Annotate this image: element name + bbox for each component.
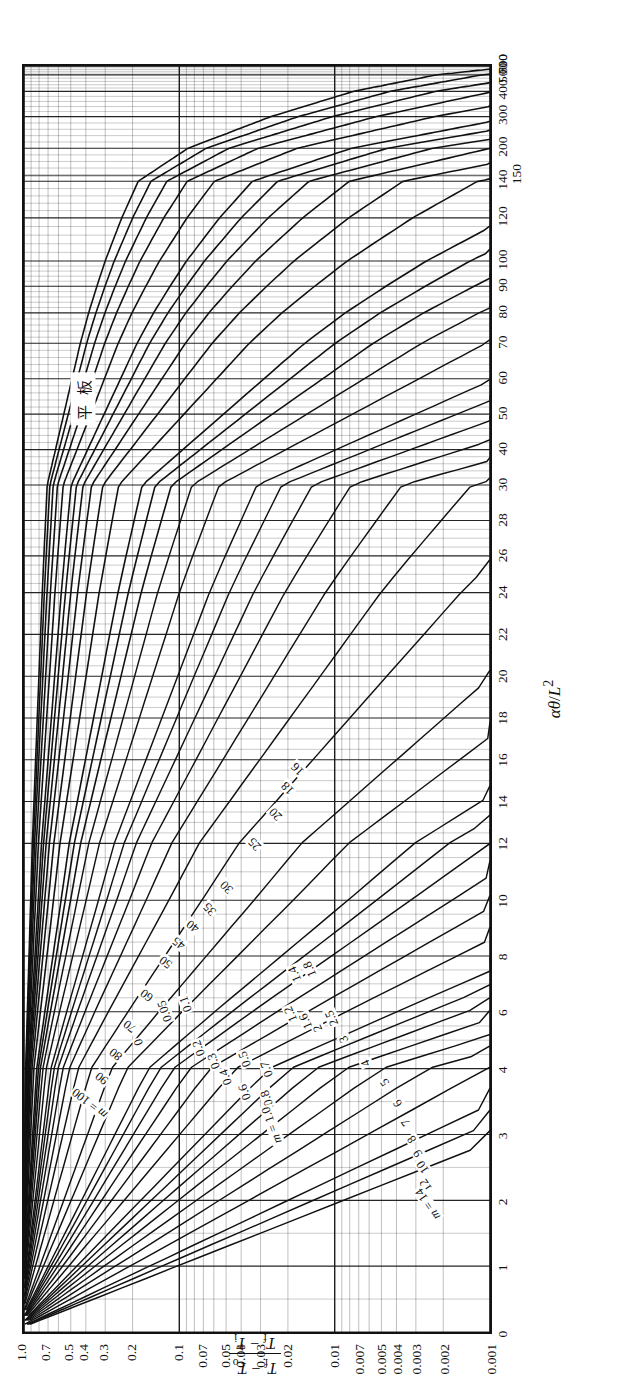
x-axis-ticks: 0123468101214161820222426283040506070809… (496, 64, 522, 1334)
x-axis-label-alpha: α (545, 709, 564, 718)
x-tick-24: 24 (496, 586, 510, 600)
curve-m-30 (24, 163, 490, 1258)
y-tick-0p005: 0.005 (375, 1344, 389, 1374)
curve-m-1p0 (27, 927, 490, 1316)
y-axis-denominator: Tf − Ti (229, 1331, 281, 1354)
curve-m-10 (24, 379, 490, 1288)
y-num-sub2: o (233, 1357, 239, 1369)
x-axis-label-exponent: 2 (540, 680, 556, 687)
x-axis-label-L: L (545, 687, 564, 696)
x-tick-10: 10 (496, 894, 510, 908)
curve-m-0p1 (27, 1088, 490, 1324)
y-tick-0p2: 0.2 (125, 1344, 139, 1361)
x-tick-28: 28 (496, 513, 510, 527)
y-tick-0p7: 0.7 (39, 1344, 53, 1361)
x-tick-90: 90 (496, 278, 510, 292)
x-tick-1: 1 (496, 1265, 510, 1272)
y-tick-0p4: 0.4 (77, 1344, 91, 1361)
x-tick-60: 60 (496, 371, 510, 385)
y-num-T1: T (268, 1360, 277, 1377)
curve-m-40 (24, 139, 490, 1246)
x-tick-40: 40 (496, 442, 510, 456)
x-tick-3: 3 (496, 1133, 510, 1140)
x-tick-140: 140 (496, 169, 510, 189)
y-tick-0p5: 0.5 (62, 1344, 76, 1361)
curve-m-0p05 (28, 1110, 490, 1324)
curve-m-4 (25, 560, 490, 1304)
curve-m-0p3 (29, 1046, 490, 1321)
y-tick-0p004: 0.004 (391, 1344, 405, 1374)
y-num-sub1: f (264, 1357, 268, 1369)
x-axis-label: αθ/L2 (540, 64, 565, 1334)
y-axis-label: Tf − To Tf − Ti (175, 1311, 335, 1396)
x-tick-22: 22 (496, 627, 510, 641)
curve-m-1p8 (27, 815, 490, 1310)
x-tick-30: 30 (496, 478, 510, 492)
x-axis-label-slash: / (545, 696, 564, 701)
y-tick-0p007: 0.007 (353, 1344, 367, 1374)
x-tick-100: 100 (496, 249, 510, 269)
plot-area: 00.050.10.20.30.40.50.60.70.8m = 1.01.21… (22, 64, 492, 1334)
curve-m-0 (30, 1131, 490, 1325)
x-tick-0: 0 (496, 1331, 510, 1338)
y-tick-0p001: 0.001 (485, 1344, 499, 1374)
x-tick-6: 6 (496, 1009, 510, 1016)
y-axis-numerator: Tf − To (229, 1354, 281, 1378)
curve-m-100 (24, 69, 490, 1203)
curve-m-0p2 (25, 1067, 490, 1324)
curve-m-50 (24, 121, 490, 1232)
curve-m-16 (24, 273, 490, 1279)
x-tick-4: 4 (496, 1066, 510, 1073)
x-tick-20: 20 (496, 669, 510, 683)
x-tick-150: 150 (510, 164, 524, 184)
x-tick-14: 14 (496, 795, 510, 809)
y-tick-0p002: 0.002 (438, 1344, 452, 1374)
x-tick-2: 2 (496, 1199, 510, 1206)
x-tick-120: 120 (496, 206, 510, 226)
y-tick-0p3: 0.3 (97, 1344, 111, 1361)
x-tick-300: 300 (496, 105, 510, 125)
curve-m-1p6 (24, 829, 490, 1316)
y-tick-1p0: 1.0 (15, 1344, 29, 1361)
curve-m-5 (24, 478, 490, 1304)
y-num-T2: T (239, 1360, 248, 1377)
curve-layer (24, 66, 490, 1332)
x-tick-200: 200 (496, 136, 510, 156)
chart-stage: 00.050.10.20.30.40.50.60.70.8m = 1.01.21… (0, 0, 624, 1396)
x-tick-70: 70 (496, 335, 510, 349)
y-den-sub2: i (234, 1332, 237, 1344)
curve-m-80 (24, 82, 490, 1202)
x-tick-16: 16 (496, 753, 510, 767)
y-axis-fraction: Tf − To Tf − Ti (229, 1331, 281, 1378)
y-tick-0p003: 0.003 (410, 1344, 424, 1374)
y-den-T1: T (267, 1336, 276, 1353)
y-den-T2: T (237, 1336, 246, 1353)
x-axis-label-theta: θ (545, 701, 564, 709)
x-tick-80: 80 (496, 305, 510, 319)
x-tick-18: 18 (496, 711, 510, 725)
y-num-minus: − (247, 1360, 264, 1377)
x-tick-50: 50 (496, 407, 510, 421)
curve-m-0p7 (25, 985, 490, 1321)
x-tick-26: 26 (496, 549, 510, 563)
y-den-sub1: f (263, 1332, 267, 1344)
x-tick-12: 12 (496, 837, 510, 851)
x-tick-8: 8 (496, 953, 510, 960)
x-tick-700: 700 (496, 54, 510, 74)
y-den-minus: − (246, 1336, 263, 1353)
curve-m-2 (26, 786, 490, 1311)
